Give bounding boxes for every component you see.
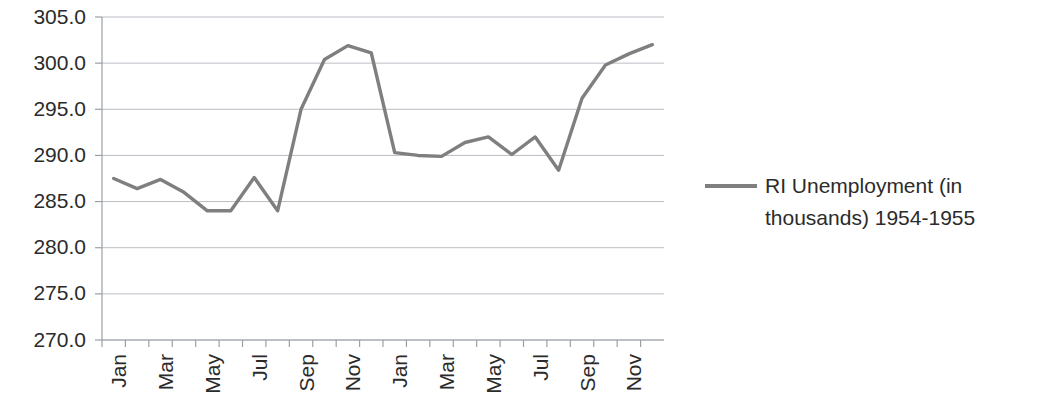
series-line-ri-unemployment <box>114 45 653 211</box>
y-axis-tick-label: 300.0 <box>33 51 86 74</box>
y-axis-tick-label: 280.0 <box>33 235 86 258</box>
x-axis-tick-label: May <box>482 354 505 394</box>
y-axis-tick-label: 290.0 <box>33 143 86 166</box>
x-axis-tick-marks <box>102 340 641 347</box>
x-axis-tick-label: Jul <box>248 354 271 381</box>
x-axis-tick-label: Jan <box>107 354 130 388</box>
y-axis-tick-label: 285.0 <box>33 189 86 212</box>
y-axis-tick-marks <box>95 17 102 340</box>
y-axis-tick-label: 305.0 <box>33 5 86 28</box>
x-axis-tick-label: Sep <box>295 354 318 391</box>
x-axis-tick-label: Sep <box>576 354 599 391</box>
x-axis-tick-label: Jul <box>529 354 552 381</box>
chart-container: 305.0300.0295.0290.0285.0280.0275.0270.0… <box>0 0 1056 404</box>
x-axis-tick-label: Mar <box>435 354 458 390</box>
line-chart: 305.0300.0295.0290.0285.0280.0275.0270.0… <box>0 0 1056 404</box>
x-axis-tick-label: Jan <box>388 354 411 388</box>
x-axis-tick-labels: JanMarMayJulSepNovJanMarMayJulSepNov <box>107 354 645 394</box>
gridlines <box>102 17 664 340</box>
x-axis-tick-label: Nov <box>341 354 364 392</box>
y-axis-tick-label: 275.0 <box>33 281 86 304</box>
y-axis-tick-label: 295.0 <box>33 97 86 120</box>
legend-label-line1: RI Unemployment (in <box>765 174 962 197</box>
x-axis-tick-label: Mar <box>154 354 177 390</box>
y-axis-tick-labels: 305.0300.0295.0290.0285.0280.0275.0270.0 <box>33 5 86 351</box>
x-axis-tick-label: Nov <box>622 354 645 392</box>
x-axis-tick-label: May <box>201 354 224 394</box>
y-axis-tick-label: 270.0 <box>33 328 86 351</box>
legend-label-line2: thousands) 1954-1955 <box>765 206 975 229</box>
